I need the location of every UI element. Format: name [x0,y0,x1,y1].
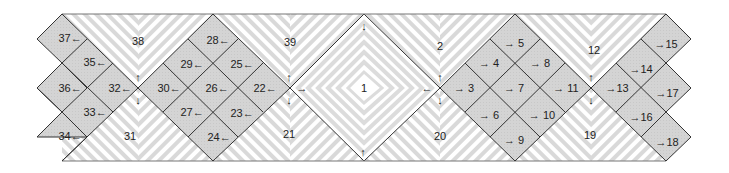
cell-14[interactable]: →14 [629,63,652,75]
arrow-up-icon: ↑ [437,71,443,83]
cell-34[interactable]: 34← [58,130,81,142]
arrow-left-icon: ← [422,82,433,94]
zone-label-20: 20 [434,130,446,142]
cell-23[interactable]: 23← [230,107,253,119]
cell-4[interactable]: → 4 [479,57,499,69]
cell-5[interactable]: → 5 [504,37,524,49]
zone-label-1: 1 [361,82,367,94]
arrow-down-icon: ↓ [135,94,141,106]
cell-17[interactable]: →17 [655,87,678,99]
cell-32[interactable]: 32← [108,82,131,94]
cell-13[interactable]: →13 [605,82,628,94]
cell-35[interactable]: 35← [83,56,106,68]
arrow-down-icon: ↓ [437,94,443,106]
cell-7[interactable]: → 7 [504,82,524,94]
cell-8[interactable]: → 8 [530,57,550,69]
cell-33[interactable]: 33← [83,106,106,118]
arrow-up-icon: ↑ [588,71,594,83]
cell-6[interactable]: → 6 [479,109,499,121]
arrow-down-icon: ↓ [361,20,367,32]
diamond-diagram: 1 38 39 2 [0,0,729,173]
cell-26[interactable]: 26← [205,82,228,94]
arrow-down-icon: ↓ [588,94,594,106]
arrow-up-icon: ↑ [360,146,366,158]
zone-label-31: 31 [124,130,136,142]
arrow-down-icon: ↓ [286,94,292,106]
zone-label-19: 19 [584,129,596,141]
zone-label-2: 2 [437,40,443,52]
cell-16[interactable]: →16 [629,111,652,123]
zone-label-38: 38 [132,35,144,47]
cell-18[interactable]: →18 [655,136,678,148]
cell-22[interactable]: 22← [253,82,276,94]
cell-30[interactable]: 30← [157,82,180,94]
zone-label-39: 39 [284,36,296,48]
cell-29[interactable]: 29← [180,58,203,70]
zone-label-21: 21 [283,128,295,140]
arrow-up-icon: ↑ [286,71,292,83]
cell-36[interactable]: 36← [58,82,81,94]
cell-37[interactable]: 37← [58,32,81,44]
cell-25[interactable]: 25← [230,58,253,70]
cell-28[interactable]: 28← [206,34,229,46]
cell-10[interactable]: → 10 [529,109,555,121]
cell-27[interactable]: 27← [180,106,203,118]
cell-24[interactable]: 24← [207,131,230,143]
cell-3[interactable]: → 3 [454,82,474,94]
cell-11[interactable]: → 11 [553,82,578,94]
zone-label-12: 12 [588,44,600,56]
arrow-right-icon: → [297,82,308,94]
cell-9[interactable]: → 9 [504,134,524,146]
arrow-up-icon: ↑ [135,71,141,83]
cell-15[interactable]: →15 [654,38,677,50]
